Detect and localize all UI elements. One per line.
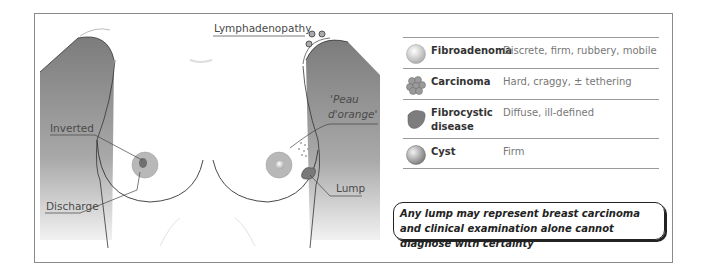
legend-row-fibroadenoma: Fibroadenoma Discrete, firm, rubbery, mo… — [403, 37, 659, 68]
label-peau-dorange-1: 'Peau — [330, 93, 359, 105]
inverted-nipple — [139, 158, 147, 168]
legend-name: Cyst — [431, 145, 503, 159]
warning-note: Any lump may represent breast carcinoma … — [393, 202, 665, 240]
legend-row-fibrocystic-disease: Fibrocystic disease Diffuse, ill-defined — [403, 99, 659, 138]
label-lump: Lump — [336, 182, 366, 194]
legend-description: Discrete, firm, rubbery, mobile — [503, 44, 657, 58]
legend-row-carcinoma: Carcinoma Hard, craggy, ± tethering — [403, 68, 659, 99]
legend-row-cyst: Cyst Firm — [403, 138, 659, 169]
label-inverted: Inverted — [50, 122, 94, 134]
legend-name: Carcinoma — [431, 75, 503, 89]
legend-name: Fibroadenoma — [431, 44, 503, 58]
label-peau-dorange-2: d'orange' — [328, 108, 377, 120]
right-nipple — [276, 161, 284, 169]
cluster-icon — [405, 74, 427, 96]
label-lymphadenopathy: Lymphadenopathy — [214, 22, 311, 34]
lump-types-legend: Fibroadenoma Discrete, firm, rubbery, mo… — [403, 37, 659, 169]
legend-description: Hard, craggy, ± tethering — [503, 75, 632, 89]
irregular-mass-icon — [405, 105, 427, 131]
legend-description: Diffuse, ill-defined — [503, 106, 594, 120]
legend-description: Firm — [503, 145, 524, 159]
right-arm-shade — [306, 40, 380, 240]
shaded-sphere-icon — [405, 144, 427, 166]
peau-dorange-dots — [298, 142, 309, 157]
label-discharge: Discharge — [46, 200, 99, 212]
legend-name: Fibrocystic disease — [431, 106, 503, 134]
smooth-sphere-icon — [405, 43, 427, 65]
